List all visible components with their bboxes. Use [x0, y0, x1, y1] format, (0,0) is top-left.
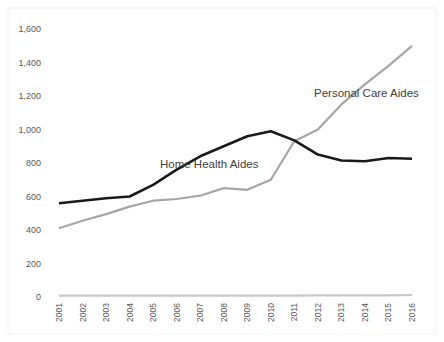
x-tick-label: 2002	[78, 303, 88, 322]
x-tick-label: 2003	[101, 303, 111, 322]
x-tick-label: 2007	[195, 303, 205, 322]
y-tick-label: 200	[26, 259, 41, 269]
x-tick-label: 2001	[54, 303, 64, 322]
y-tick-label: 0	[36, 292, 41, 302]
x-tick-label: 2009	[242, 303, 252, 322]
x-tick-label: 2005	[148, 303, 158, 322]
series-line-personal-care-aides	[59, 46, 412, 229]
y-tick-label: 1,400	[18, 58, 41, 68]
x-tick-label: 2012	[313, 303, 323, 322]
y-axis: 02004006008001,0001,2001,4001,600	[18, 24, 41, 302]
annotation-label: Home Health Aides	[160, 158, 259, 170]
chart-border	[8, 8, 436, 334]
y-tick-label: 1,200	[18, 91, 41, 101]
y-tick-label: 400	[26, 225, 41, 235]
y-tick-label: 1,000	[18, 125, 41, 135]
x-tick-label: 2006	[172, 303, 182, 322]
x-tick-label: 2011	[289, 303, 299, 322]
x-tick-label: 2008	[219, 303, 229, 322]
x-axis: 2001200220032004200520062007200820092010…	[54, 303, 417, 322]
x-tick-label: 2004	[125, 303, 135, 322]
series-lines	[59, 46, 412, 296]
x-tick-label: 2014	[360, 303, 370, 322]
y-tick-label: 800	[26, 158, 41, 168]
x-tick-label: 2010	[266, 303, 276, 322]
series-line-baseline-series	[59, 295, 412, 296]
x-tick-label: 2016	[407, 303, 417, 322]
y-tick-label: 1,600	[18, 24, 41, 34]
x-tick-label: 2015	[383, 303, 393, 322]
y-tick-label: 600	[26, 192, 41, 202]
x-tick-label: 2013	[336, 303, 346, 322]
line-chart: 02004006008001,0001,2001,4001,600 200120…	[0, 0, 444, 342]
annotation-label: Personal Care Aides	[314, 87, 419, 99]
annotations: Home Health AidesPersonal Care Aides	[160, 87, 419, 170]
